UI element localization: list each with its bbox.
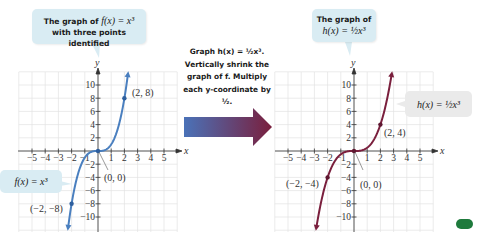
svg-text:−4: −4 [40, 153, 50, 163]
left-origin-leader [99, 152, 108, 170]
svg-text:6: 6 [346, 107, 351, 117]
right-graph-callout: The graph of h(x) = ½x³ [312, 9, 376, 42]
transform-arrow-icon [184, 108, 272, 146]
left-callout-line2: with three points identified [32, 27, 146, 49]
svg-text:−10: −10 [336, 212, 351, 222]
description-line1: Graph h(x) = ½x³. [178, 46, 276, 59]
svg-text:−4: −4 [85, 173, 95, 183]
f-function-label: f(x) = x³ [0, 170, 62, 193]
right-point-label-neg2-neg4: (−2, −4) [286, 178, 319, 190]
left-point-label-2-8: (2, 8) [132, 87, 154, 99]
svg-text:−10: −10 [80, 212, 95, 222]
svg-text:1: 1 [109, 153, 114, 163]
right-callout-tail [345, 42, 352, 56]
svg-text:5: 5 [162, 153, 167, 163]
svg-text:8: 8 [90, 94, 95, 104]
left-callout-function: f(x) = x³ [101, 15, 134, 26]
svg-text:−5: −5 [283, 153, 293, 163]
svg-text:10: 10 [86, 80, 96, 90]
svg-text:3: 3 [391, 153, 396, 163]
svg-text:−8: −8 [341, 199, 351, 209]
svg-text:2: 2 [378, 153, 383, 163]
left-x-axis-label: x [183, 145, 189, 156]
svg-text:−2: −2 [323, 153, 333, 163]
svg-text:4: 4 [346, 120, 351, 130]
svg-text:4: 4 [90, 120, 95, 130]
svg-text:10: 10 [342, 80, 352, 90]
svg-text:−2: −2 [85, 160, 95, 170]
right-point-label-origin: (0, 0) [360, 179, 382, 191]
f-function-label-text: f(x) = x³ [14, 176, 47, 187]
svg-text:2: 2 [346, 133, 351, 143]
h-function-label-text: h(x) = ½x³ [417, 99, 460, 110]
h-function-label: h(x) = ½x³ [405, 91, 472, 117]
description-line4: each y-coordinate by ½. [178, 84, 276, 109]
svg-text:−6: −6 [341, 186, 351, 196]
left-y-axis-label: y [94, 57, 100, 68]
right-x-axis-label: x [439, 145, 445, 156]
svg-text:−5: −5 [27, 153, 37, 163]
left-callout-line1: The graph of [44, 17, 99, 26]
svg-text:−2: −2 [67, 153, 77, 163]
svg-text:6: 6 [90, 107, 95, 117]
left-point-label-origin: (0, 0) [104, 172, 126, 184]
svg-text:−2: −2 [341, 160, 351, 170]
right-callout-function: h(x) = ½x³ [323, 25, 366, 36]
svg-text:−8: −8 [85, 199, 95, 209]
svg-text:3: 3 [135, 153, 140, 163]
svg-text:4: 4 [148, 153, 153, 163]
transformation-description: Graph h(x) = ½x³. Vertically shrink the … [178, 46, 276, 109]
description-line3: graph of f. Multiply [178, 71, 276, 84]
left-graph-callout: The graph of f(x) = x³ with three points… [32, 9, 146, 44]
svg-text:−4: −4 [296, 153, 306, 163]
green-indicator-button[interactable] [456, 219, 473, 229]
svg-text:−3: −3 [309, 153, 319, 163]
svg-text:1: 1 [365, 153, 370, 163]
svg-text:2: 2 [122, 153, 127, 163]
svg-text:−6: −6 [85, 186, 95, 196]
svg-text:5: 5 [418, 153, 423, 163]
right-origin-leader [355, 152, 363, 170]
svg-text:−4: −4 [341, 173, 351, 183]
right-point-label-2-4: (2, 4) [384, 127, 406, 139]
svg-text:8: 8 [346, 94, 351, 104]
right-callout-line1: The graph of [312, 14, 376, 25]
svg-text:2: 2 [90, 133, 95, 143]
svg-text:−3: −3 [53, 153, 63, 163]
right-y-axis-label: y [350, 57, 356, 68]
description-line2: Vertically shrink the [178, 59, 276, 72]
h-label-tail [396, 101, 405, 107]
svg-text:4: 4 [404, 153, 409, 163]
left-point-label-neg2-neg8: (−2, −8) [30, 203, 63, 215]
